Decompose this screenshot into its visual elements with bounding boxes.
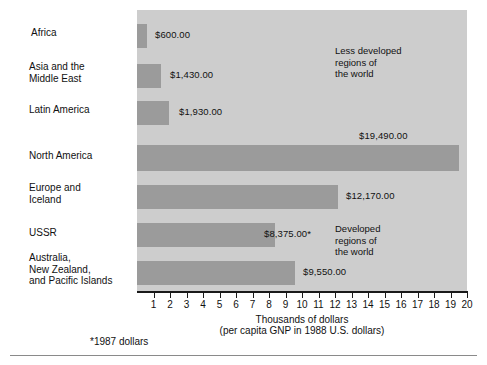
bar-australia-nz-pacific: [137, 261, 295, 285]
value-label-europe-iceland: $12,170.00: [346, 190, 395, 201]
x-tick-11: [319, 292, 320, 298]
category-label-asia-middle-east: Asia and the Middle East: [29, 61, 85, 84]
x-axis-caption: Thousands of dollars: [137, 314, 467, 325]
bar-europe-iceland: [137, 185, 338, 209]
horizontal-rule: [10, 355, 477, 356]
value-label-africa: $600.00: [155, 29, 190, 40]
value-label-north-america: $19,490.00: [359, 130, 408, 141]
value-label-australia-nz-pacific: $9,550.00: [303, 266, 346, 277]
chart-figure: $600.00 $1,430.00 $1,930.00 $19,490.00 $…: [0, 0, 487, 365]
category-label-north-america: North America: [29, 150, 92, 162]
value-label-ussr: $8,375.00*: [264, 228, 311, 239]
x-tick-6: [236, 292, 237, 298]
x-tick-7: [253, 292, 254, 298]
x-tick-3: [187, 292, 188, 298]
plot-area: $600.00 $1,430.00 $1,930.00 $19,490.00 $…: [137, 10, 467, 291]
x-tick-10: [302, 292, 303, 298]
x-tick-16: [401, 292, 402, 298]
value-label-asia-middle-east: $1,430.00: [170, 69, 213, 80]
x-tick-12: [335, 292, 336, 298]
bar-latin-america: [137, 101, 169, 125]
x-tick-4: [203, 292, 204, 298]
x-tick-5: [220, 292, 221, 298]
footnote: *1987 dollars: [90, 336, 148, 347]
x-tick-label-20: 20: [457, 299, 477, 310]
x-tick-19: [451, 292, 452, 298]
category-label-ussr: USSR: [29, 227, 57, 239]
x-tick-8: [269, 292, 270, 298]
x-tick-15: [385, 292, 386, 298]
x-tick-9: [286, 292, 287, 298]
bar-ussr: [137, 223, 275, 247]
annotation-less-developed: Less developed regions of the world: [335, 45, 402, 80]
category-label-europe-iceland: Europe and Iceland: [29, 182, 81, 205]
x-tick-14: [368, 292, 369, 298]
category-label-latin-america: Latin America: [29, 104, 90, 116]
x-tick-17: [418, 292, 419, 298]
category-label-africa: Africa: [31, 27, 57, 39]
x-tick-13: [352, 292, 353, 298]
x-tick-20: [467, 292, 468, 298]
bar-africa: [137, 24, 147, 48]
x-tick-18: [434, 292, 435, 298]
annotation-developed: Developed regions of the world: [335, 223, 380, 258]
x-axis-subcaption: (per capita GNP in 1988 U.S. dollars): [137, 325, 467, 336]
value-label-latin-america: $1,930.00: [179, 106, 222, 117]
x-tick-1: [154, 292, 155, 298]
x-tick-2: [170, 292, 171, 298]
bar-asia-middle-east: [137, 64, 161, 88]
category-label-australia-nz-pacific: Australia, New Zealand, and Pacific Isla…: [29, 252, 112, 287]
bar-north-america: [137, 145, 459, 171]
